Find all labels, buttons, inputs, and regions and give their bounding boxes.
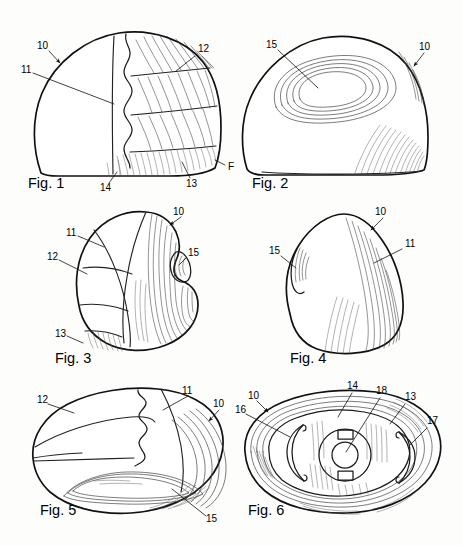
fig6-ref-16: 16 [235,404,246,415]
fig1-ref-11: 11 [21,64,31,75]
fig6-ref-14: 14 [347,380,358,391]
figure-6-drawing [245,390,441,514]
fig6-ref-18: 18 [376,385,387,396]
fig1-ref-13: 13 [186,178,197,189]
fig3-ref-11: 11 [66,227,76,238]
patent-drawing-sheet: Fig. 1 Fig. 2 Fig. 3 Fig. 4 Fig. 5 Fig. … [0,0,462,546]
fig1-ref-12: 12 [198,43,209,54]
fig2-leader-10 [414,53,424,66]
fig3-leader-15 [179,258,186,265]
fig3-ref-15: 15 [188,247,199,258]
fig1-leader-10 [49,51,60,63]
figure-6-caption: Fig. 6 [248,502,284,518]
fig2-ref-15: 15 [266,39,277,50]
fig4-ref-11: 11 [405,238,415,249]
fig3-leader-10 [170,217,181,225]
fig6-ref-10: 10 [248,390,259,401]
figure-1-caption: Fig. 1 [28,175,64,191]
fig3-leader-13 [67,336,83,343]
fig3-ref-12: 12 [47,251,58,262]
drawing-canvas [0,0,462,546]
fig1-ref-14: 14 [100,182,111,193]
fig5-ref-15: 15 [206,513,217,524]
fig6-ref-17: 17 [427,415,438,426]
figure-4-drawing [281,214,403,354]
fig3-ref-13: 13 [55,328,66,339]
fig4-ref-10: 10 [375,206,386,217]
fig4-ref-15: 15 [269,245,280,256]
figure-3-caption: Fig. 3 [55,350,91,366]
fig1-ref-10: 10 [37,40,48,51]
figure-3-drawing [59,212,198,351]
figure-5-caption: Fig. 5 [40,502,76,518]
fig6-ref-13: 13 [405,391,416,402]
figure-5-drawing [33,388,226,516]
fig5-ref-10: 10 [213,398,224,409]
fig5-ref-11: 11 [182,385,192,396]
figure-2-drawing [242,36,428,175]
fig1-ref-F: F [228,161,234,172]
fig5-ref-12: 12 [37,394,48,405]
figure-4-caption: Fig. 4 [290,350,326,366]
fig3-ref-10: 10 [173,206,184,217]
fig4-leader-10 [371,218,383,230]
figure-2-caption: Fig. 2 [252,175,288,191]
fig2-ref-10: 10 [419,41,430,52]
figure-1-drawing [33,32,225,183]
fig6-leader-10 [257,401,268,412]
